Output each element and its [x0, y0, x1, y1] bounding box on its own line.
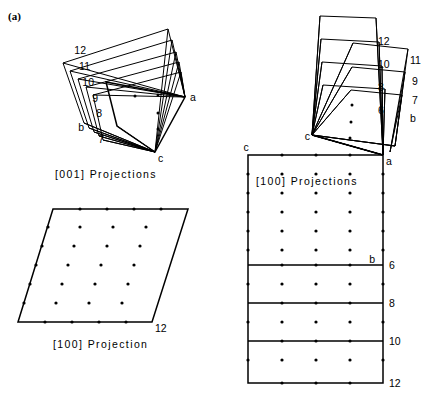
panel-label-a: (a): [8, 10, 21, 23]
vertex-label-a-001: a: [190, 91, 196, 103]
label-right-12: 12: [378, 35, 390, 47]
vertex-label-a-right: a: [386, 155, 392, 167]
label-layer-12: 12: [74, 44, 86, 56]
bottom-right-projections-group: c b 6 8 10 12 [100] Projections: [243, 141, 400, 389]
label-right-b: b: [410, 112, 416, 124]
label-corner-12: 12: [155, 322, 167, 334]
vertex-label-c-001: c: [158, 152, 163, 164]
top-left-projections-group: 12 11 10 9 8 7 a b c [001] Projections: [55, 29, 196, 180]
label-right-10: 10: [378, 58, 390, 70]
vertex-label-b-001: b: [78, 121, 84, 133]
label-right-8: 8: [378, 81, 384, 93]
edge-c-to-a: [312, 135, 383, 155]
label-layer-9: 9: [92, 92, 98, 104]
label-division-12: 12: [389, 377, 401, 389]
label-division-6: 6: [389, 259, 395, 271]
strip-outline-7: [312, 67, 405, 146]
strip-outline-6: [312, 90, 402, 146]
caption-001-projections: [001] Projections: [55, 168, 157, 180]
lattice-dots-001: [134, 94, 160, 131]
label-division-10: 10: [389, 335, 401, 347]
figure-root: (a): [0, 0, 431, 393]
bottom-left-projection-group: 12 [100] Projection: [18, 207, 188, 350]
label-right-11: 11: [410, 54, 421, 66]
lattice-dots-right-fan: [349, 104, 354, 140]
fan-lines-to-c: [84, 123, 155, 152]
fan-lines-right-to-c: [312, 16, 353, 135]
vertex-label-c-fan: c: [305, 130, 310, 142]
lattice-dots-100-projections: [280, 172, 351, 361]
vertex-label-b-rect: b: [369, 253, 375, 265]
label-layer-7: 7: [98, 133, 104, 145]
label-division-8: 8: [389, 297, 395, 309]
top-right-projections-group: 12 10 8 6 11 9 7 b a c: [305, 16, 421, 167]
label-layer-11: 11: [79, 60, 90, 72]
strip-outline-9: [312, 85, 385, 155]
caption-100-projection: [100] Projection: [53, 338, 148, 350]
label-right-6: 6: [378, 104, 384, 116]
parallelogram-100-projection: [18, 209, 188, 322]
caption-100-projections: [100] Projections: [256, 175, 358, 187]
vertex-label-c-rect: c: [243, 141, 248, 153]
strip-outline-10: [312, 62, 383, 155]
projection-figure-svg: (a): [0, 0, 431, 393]
label-layer-8: 8: [96, 107, 102, 119]
rectangle-100-projections: [248, 155, 383, 383]
label-right-7: 7: [412, 94, 418, 106]
label-right-9: 9: [412, 75, 418, 87]
lattice-dots-100-projection: [22, 225, 147, 304]
label-layer-10: 10: [82, 76, 94, 88]
